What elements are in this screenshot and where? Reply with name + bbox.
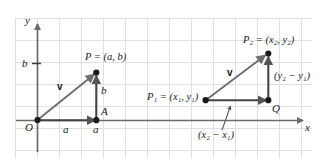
point-P-label: P = (a, b)	[85, 52, 126, 63]
left-x-foot-label: a	[93, 124, 99, 135]
point-P1-label: P₁ = (x₁, y₁)	[147, 92, 198, 103]
x-axis-label: x	[305, 122, 310, 133]
y-axis-label: y	[25, 15, 30, 26]
point-O	[34, 117, 40, 123]
point-Q	[265, 97, 271, 103]
point-Q-label: Q	[272, 103, 280, 114]
origin-label: O	[25, 122, 33, 133]
point-P2-label: P₂ = (x₂, y₂)	[243, 35, 294, 46]
left-horizontal-component-label: a	[63, 124, 69, 135]
right-horizontal-component-label: (x₂ − x₁)	[198, 130, 234, 141]
right-vector-label: v	[227, 68, 233, 78]
left-vector-v	[38, 75, 95, 121]
left-vector-label: v	[57, 82, 63, 92]
point-P2	[265, 50, 271, 56]
point-P-label-text: P = (a, b)	[85, 51, 126, 62]
left-vertical-component-label: b	[101, 85, 107, 96]
vector-diagram-figure: y x O b P = (a, b) v a b A a P₁ = (x₁, y…	[0, 0, 332, 162]
left-diagram-graphics	[34, 69, 99, 123]
x-difference-leader-line	[222, 106, 231, 130]
point-P	[93, 69, 99, 75]
right-vertical-component-label: (y₂ − y₁)	[274, 71, 310, 82]
y-tick-label-b: b	[22, 58, 28, 69]
point-A-label: A	[101, 106, 108, 117]
point-P1	[203, 97, 209, 103]
